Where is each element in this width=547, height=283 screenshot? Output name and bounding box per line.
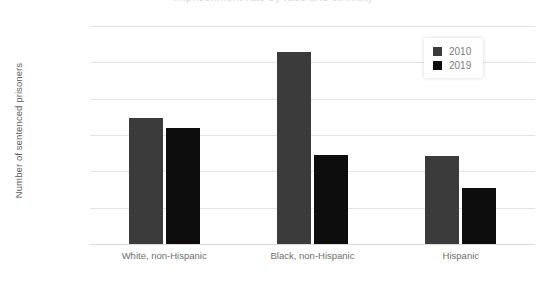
legend-swatch-icon [433,61,442,70]
y-axis-title: Number of sentenced prisoners [10,28,28,233]
bar[interactable] [314,155,348,244]
x-axis-labels: White, non-HispanicBlack, non-HispanicHi… [90,250,535,266]
bar[interactable] [462,188,496,244]
chart-title-text: Imprisonment rate by race and ethnicity [173,0,373,3]
bar[interactable] [166,128,200,244]
bar[interactable] [425,156,459,244]
bar[interactable] [129,118,163,244]
chart-title-cropped: Imprisonment rate by race and ethnicity [0,0,547,8]
x-axis-tick-label: Black, non-Hispanic [271,250,355,261]
x-axis-tick-label: White, non-Hispanic [122,250,207,261]
x-axis-tick-label: Hispanic [443,250,479,261]
legend-swatch-icon [433,47,442,56]
legend-label: 2010 [449,46,471,57]
bar[interactable] [277,52,311,244]
legend-label: 2019 [449,60,471,71]
legend-item[interactable]: 2019 [433,58,471,72]
bar-chart: Imprisonment rate by race and ethnicity … [0,0,547,283]
legend: 2010 2019 [424,38,483,78]
legend-item[interactable]: 2010 [433,44,471,58]
y-axis-title-label: Number of sentenced prisoners [14,63,25,198]
gridline [90,244,535,245]
